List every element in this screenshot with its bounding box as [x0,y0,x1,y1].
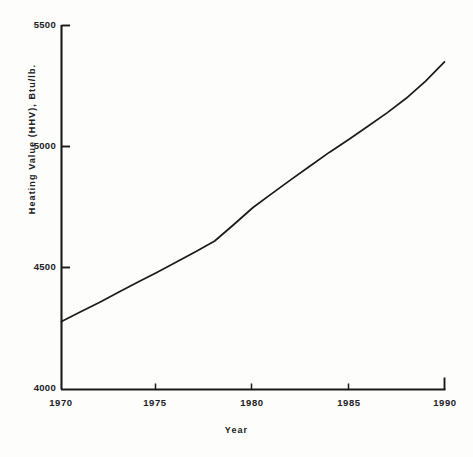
chart-svg [0,0,473,457]
y-tick-text: 4500 [12,262,56,272]
y-axis-title: Heating Value (HHV), Btu/lb. [27,44,37,234]
x-tick-label-1990: 1990 [419,397,471,409]
y-tick-label-4500: 4500 [10,262,56,272]
x-tick-label-1985: 1985 [323,397,375,409]
y-tick-marks [62,26,71,268]
y-tick-text: 4000 [12,383,56,393]
x-axis-title: Year [0,425,473,435]
chart-figure: 5500 5000 4500 4000 1970 1975 1980 1985 … [0,0,473,457]
x-tick-label-1980: 1980 [226,397,278,409]
x-tick-text: 1985 [323,397,375,409]
x-tick-text: 1990 [419,397,471,409]
x-tick-marks [156,378,445,390]
y-tick-label-4000: 4000 [10,383,56,393]
plot-area [0,0,473,457]
x-tick-text: 1970 [35,397,87,409]
data-line-heating-value [62,62,445,322]
y-tick-label-5500: 5500 [10,20,56,30]
x-tick-label-1970: 1970 [35,397,87,409]
x-tick-text: 1975 [129,397,181,409]
x-tick-text: 1980 [226,397,278,409]
y-tick-text: 5500 [12,20,56,30]
x-tick-label-1975: 1975 [129,397,181,409]
